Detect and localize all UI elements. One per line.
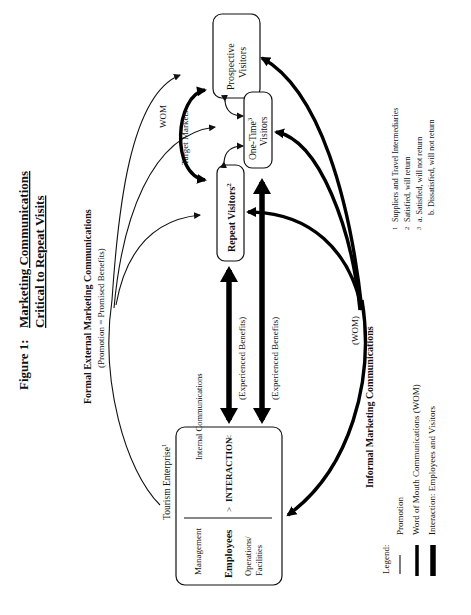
footnote-1-num: 1 bbox=[391, 227, 398, 230]
figure-title: Figure 1: Marketing Communications Criti… bbox=[16, 171, 47, 390]
experienced-benefits-label-1: (Experienced Benefits) bbox=[237, 317, 247, 400]
node-prospective-visitors: Prospective Visitors bbox=[213, 14, 260, 98]
formal-communications-label: Formal External Marketing Communications… bbox=[82, 209, 106, 404]
management-label: Management bbox=[193, 528, 203, 575]
formal-subheading: (Promotion = Promised Benefits) bbox=[96, 248, 106, 368]
interaction-bracket-right: < bbox=[224, 435, 234, 440]
prospective-line1: Prospective bbox=[225, 43, 236, 90]
footnote-3-num: 3 bbox=[415, 227, 422, 230]
repeat-onetime-arrow bbox=[224, 146, 243, 162]
figure-label: Figure 1: bbox=[16, 339, 31, 390]
employees-label: Employees bbox=[223, 530, 234, 578]
operations-line1: Operations/ bbox=[243, 536, 253, 576]
one-time-line1: One-Time3 bbox=[246, 117, 258, 160]
promotion-arrow-target-markets bbox=[114, 127, 215, 308]
legend-title: Legend: bbox=[381, 545, 391, 575]
legend-item-wom: Word of Mouth Communications (WOM) bbox=[411, 384, 421, 535]
wom-label: WOM bbox=[158, 105, 168, 128]
node-repeat-visitors: Repeat Visitors2 bbox=[217, 165, 244, 261]
operations-line2: Facilities bbox=[254, 545, 264, 576]
footnote-3a-text: a. Satisfied, will not return bbox=[415, 137, 424, 222]
prospective-line2: Visitors bbox=[237, 47, 248, 78]
interaction-bracket-left: > bbox=[224, 507, 234, 512]
internal-communications-label: Internal Communications bbox=[194, 373, 204, 460]
footnote-2-num: 2 bbox=[403, 227, 410, 230]
footnote-3b-text: b. Dissatisfied, will not return bbox=[427, 119, 436, 215]
legend: Legend: Promotion Word of Mouth Communic… bbox=[381, 384, 437, 576]
promotion-arrow-repeat bbox=[116, 215, 200, 305]
legend-item-interaction: Interaction: Employees and Visitors bbox=[427, 405, 437, 535]
target-markets-label: Target Markets bbox=[180, 110, 190, 165]
interaction-label: INTERACTION bbox=[224, 437, 234, 502]
footnotes: 1 Suppliers and Travel Intermediaries 2 … bbox=[391, 108, 436, 230]
informal-heading: Informal Marketing Communications bbox=[364, 326, 375, 488]
informal-wom-label: (WOM) bbox=[350, 316, 360, 345]
repeat-label: Repeat Visitors2 bbox=[225, 183, 237, 252]
title-line1: Marketing Communications bbox=[16, 171, 31, 328]
title-line2: Critical to Repeat Visits bbox=[32, 195, 47, 328]
formal-heading: Formal External Marketing Communications bbox=[82, 209, 93, 404]
diagram-canvas: Figure 1: Marketing Communications Criti… bbox=[0, 0, 471, 615]
footnote-1-text: Suppliers and Travel Intermediaries bbox=[391, 108, 400, 222]
wom-arrow-prospective bbox=[262, 58, 362, 310]
node-one-time-visitors: One-Time3 Visitors bbox=[244, 92, 272, 168]
experienced-benefits-label-2: (Experienced Benefits) bbox=[270, 317, 280, 400]
enterprise-title: Tourism Enterprise1 bbox=[160, 444, 172, 520]
prospective-onetime-arrow bbox=[225, 101, 243, 116]
one-time-line2: Visitors bbox=[259, 116, 269, 146]
legend-item-promotion: Promotion bbox=[395, 496, 405, 535]
footnote-2-text: Satisfied, will return bbox=[403, 156, 412, 222]
